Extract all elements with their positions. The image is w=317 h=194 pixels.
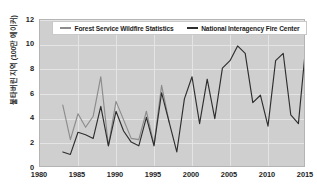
wildfire-line-chart: 불타버린 지역 (100만 에이커) 024681012 19801985199… <box>0 0 317 194</box>
y-axis-tick-label: 12 <box>10 15 34 24</box>
legend-line-swatch <box>187 27 198 29</box>
y-axis-tick-label: 2 <box>10 138 34 147</box>
x-axis-tick-label: 1980 <box>19 170 59 179</box>
legend-item[interactable]: Forest Service Wildfire Statistics <box>60 25 174 32</box>
legend-label: National Interagency Fire Center <box>201 25 299 32</box>
legend-label: Forest Service Wildfire Statistics <box>75 25 174 32</box>
y-axis-tick-label: 10 <box>10 39 34 48</box>
y-axis-tick-label: 6 <box>10 89 34 98</box>
x-axis-tick-label: 1990 <box>95 170 135 179</box>
series-lines <box>40 20 305 167</box>
x-axis-tick-label: 1985 <box>57 170 97 179</box>
x-axis-tick-label: 2000 <box>171 170 211 179</box>
x-axis-tick-label: 2015 <box>285 170 317 179</box>
chart-legend: Forest Service Wildfire StatisticsNation… <box>52 21 307 35</box>
legend-item[interactable]: National Interagency Fire Center <box>187 25 300 32</box>
plot-area <box>39 19 305 167</box>
x-axis-tick-label: 1995 <box>133 170 173 179</box>
y-axis-tick-label: 8 <box>10 64 34 73</box>
x-axis-tick-label: 2010 <box>247 170 287 179</box>
legend-line-swatch <box>60 27 71 29</box>
x-axis-tick-label: 2005 <box>209 170 249 179</box>
y-axis-tick-label: 4 <box>10 113 34 122</box>
series-line <box>63 43 305 154</box>
